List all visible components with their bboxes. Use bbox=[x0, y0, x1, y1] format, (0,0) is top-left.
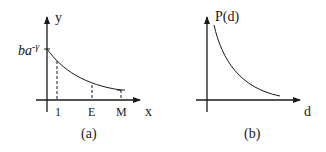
y-axis-label-b: P(d) bbox=[215, 9, 239, 25]
panel-a: y ba-γ 1 E M x (a) bbox=[18, 10, 152, 142]
caption-b: (b) bbox=[244, 126, 261, 142]
x-tick-M: M bbox=[116, 105, 127, 119]
x-tick-E: E bbox=[88, 105, 95, 119]
x-tick-1: 1 bbox=[55, 105, 61, 119]
y-intercept-label: ba-γ bbox=[18, 41, 40, 58]
figure: y ba-γ 1 E M x (a) P(d) d (b) bbox=[0, 0, 326, 152]
x-axis-label-b: d bbox=[304, 104, 311, 119]
panel-b: P(d) d (b) bbox=[196, 9, 311, 142]
curve-b bbox=[214, 25, 280, 96]
x-axis-label-a: x bbox=[145, 104, 152, 119]
caption-a: (a) bbox=[81, 126, 97, 142]
y-axis-label-a: y bbox=[55, 10, 62, 25]
curve-a bbox=[47, 49, 121, 90]
